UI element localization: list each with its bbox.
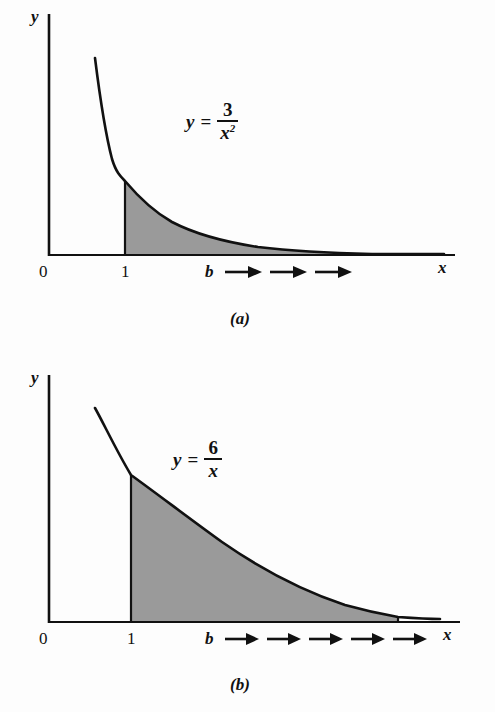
x-axis-label-a: x [438, 259, 447, 276]
arrow-icon [267, 633, 301, 645]
arrow-group-b [225, 633, 427, 645]
arrow-icon [393, 633, 427, 645]
equation-numerator-a: 3 [220, 100, 236, 120]
arrow-icon [225, 266, 262, 278]
chart-b-graphic [0, 356, 495, 712]
chart-panel-b: y x 0 1 b y = 6 x (b) [0, 356, 495, 712]
equation-denominator-base-b: x [209, 460, 219, 481]
equation-denominator-a: x2 [217, 122, 238, 142]
arrow-icon [351, 633, 385, 645]
figure-page: y x 0 1 b y = 3 x2 (a) [0, 0, 495, 712]
equation-denominator-b: x [206, 460, 222, 480]
equation-lhs-b: y [173, 450, 181, 469]
equation-numerator-b: 6 [206, 438, 222, 458]
tick-label-zero-a: 0 [39, 263, 48, 280]
equation-operator-a: = [200, 112, 211, 131]
b-label-a: b [205, 263, 214, 280]
equation-a: y = 3 x2 [186, 100, 238, 142]
chart-panel-a: y x 0 1 b y = 3 x2 (a) [0, 0, 495, 356]
x-axis-label-b: x [443, 626, 452, 643]
equation-fraction-a: 3 x2 [217, 100, 238, 142]
shaded-region-a [125, 181, 372, 255]
equation-exponent-a: 2 [230, 122, 236, 134]
equation-b: y = 6 x [173, 438, 222, 480]
arrow-group-a [225, 266, 352, 278]
tick-label-zero-b: 0 [39, 630, 48, 647]
y-axis-label-a: y [31, 8, 39, 25]
caption-a: (a) [230, 310, 250, 327]
tick-label-one-a: 1 [121, 263, 130, 280]
y-axis-label-b: y [31, 369, 39, 386]
equation-lhs-a: y [186, 112, 194, 131]
arrow-icon [225, 633, 259, 645]
equation-denominator-base-a: x [220, 122, 230, 143]
tick-label-one-b: 1 [127, 630, 136, 647]
chart-a-graphic [0, 0, 495, 356]
b-label-b: b [205, 630, 214, 647]
shaded-region-b [131, 475, 398, 622]
arrow-icon [270, 266, 307, 278]
equation-operator-b: = [187, 450, 198, 469]
arrow-icon [315, 266, 352, 278]
caption-b: (b) [230, 676, 250, 693]
equation-fraction-b: 6 x [204, 438, 222, 480]
arrow-icon [309, 633, 343, 645]
